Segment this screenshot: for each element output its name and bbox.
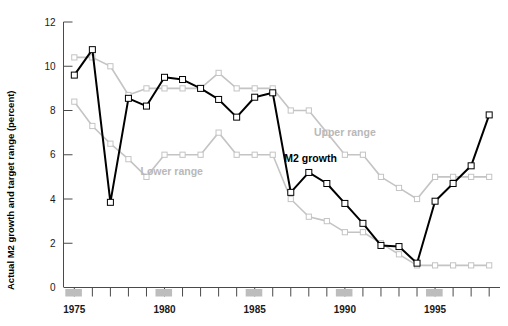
data-point-marker xyxy=(107,199,113,205)
series-line xyxy=(74,102,489,266)
y-tick-label: 8 xyxy=(50,105,56,116)
data-point-marker xyxy=(342,230,347,235)
data-point-marker xyxy=(162,152,167,157)
data-point-marker xyxy=(487,174,492,179)
data-point-marker xyxy=(324,219,329,224)
data-point-marker xyxy=(162,74,168,80)
data-point-marker xyxy=(432,263,437,268)
data-point-marker xyxy=(396,185,401,190)
x-axis-band xyxy=(246,289,263,297)
data-point-marker xyxy=(234,86,239,91)
data-point-marker xyxy=(144,86,149,91)
data-point-marker xyxy=(143,103,149,109)
data-point-marker xyxy=(126,157,131,162)
x-tick-label: 1980 xyxy=(153,304,176,315)
data-point-marker xyxy=(108,64,113,69)
y-tick-label: 6 xyxy=(50,149,56,160)
chart-container: Actual M2 growth and target range (perce… xyxy=(0,0,508,326)
series-m2-growth xyxy=(71,47,492,267)
x-tick-label: 1995 xyxy=(424,304,447,315)
data-point-marker xyxy=(306,214,311,219)
data-point-marker xyxy=(180,77,186,83)
data-point-marker xyxy=(396,244,402,250)
data-point-marker xyxy=(396,252,401,257)
y-axis-ticks: 024681012 xyxy=(44,17,72,294)
data-point-marker xyxy=(270,152,275,157)
data-point-marker xyxy=(432,174,437,179)
data-point-marker xyxy=(360,152,365,157)
data-point-marker xyxy=(360,230,365,235)
data-point-marker xyxy=(72,55,77,60)
data-point-marker xyxy=(469,263,474,268)
data-point-marker xyxy=(89,47,95,53)
data-point-marker xyxy=(451,174,456,179)
data-point-marker xyxy=(72,99,77,104)
data-point-marker xyxy=(342,152,347,157)
data-point-marker xyxy=(486,112,492,118)
y-tick-label: 12 xyxy=(44,17,56,28)
data-point-marker xyxy=(288,196,293,201)
data-point-marker xyxy=(450,181,456,187)
y-tick-label: 0 xyxy=(50,282,56,293)
x-axis-band xyxy=(155,289,172,297)
data-point-marker xyxy=(198,85,204,91)
data-point-marker xyxy=(108,141,113,146)
data-point-marker xyxy=(468,163,474,169)
data-point-marker xyxy=(252,152,257,157)
data-point-marker xyxy=(378,242,384,248)
data-point-marker xyxy=(252,86,257,91)
data-point-marker xyxy=(252,94,258,100)
data-point-marker xyxy=(451,263,456,268)
series-upper-range xyxy=(72,55,492,202)
data-point-marker xyxy=(342,200,348,206)
data-point-marker xyxy=(234,114,240,120)
data-point-marker xyxy=(288,108,293,113)
x-axis-tick-labels: 19751980198519901995 xyxy=(63,304,446,315)
data-point-marker xyxy=(198,152,203,157)
data-point-marker xyxy=(288,189,294,195)
data-point-marker xyxy=(469,174,474,179)
m2-growth-line-chart: Actual M2 growth and target range (perce… xyxy=(0,0,508,326)
data-point-marker xyxy=(90,123,95,128)
y-axis-title: Actual M2 growth and target range (perce… xyxy=(5,90,16,290)
data-point-marker xyxy=(306,108,311,113)
data-point-marker xyxy=(71,72,77,78)
data-point-marker xyxy=(234,152,239,157)
data-point-marker xyxy=(180,152,185,157)
series-annotation-m2-growth: M2 growth xyxy=(284,152,337,164)
series-annotation-upper-range: Upper range xyxy=(314,126,376,138)
data-point-marker xyxy=(125,95,131,101)
x-axis-band xyxy=(65,289,82,297)
data-point-marker xyxy=(414,260,420,266)
data-point-marker xyxy=(360,220,366,226)
y-tick-label: 10 xyxy=(44,61,56,72)
data-point-marker xyxy=(216,130,221,135)
series-annotation-lower-range: Lower range xyxy=(141,165,204,177)
y-tick-label: 2 xyxy=(50,238,56,249)
x-tick-label: 1990 xyxy=(334,304,357,315)
data-point-marker xyxy=(216,70,221,75)
data-point-marker xyxy=(487,263,492,268)
chart-annotations: Upper rangeM2 growthLower range xyxy=(141,126,376,177)
data-point-marker xyxy=(216,96,222,102)
x-tick-label: 1975 xyxy=(63,304,86,315)
x-tick-label: 1985 xyxy=(244,304,267,315)
data-point-marker xyxy=(378,174,383,179)
data-point-marker xyxy=(432,198,438,204)
y-tick-label: 4 xyxy=(50,194,56,205)
x-axis-band xyxy=(426,289,443,297)
data-point-marker xyxy=(306,169,312,175)
series-line xyxy=(74,50,489,264)
data-point-marker xyxy=(162,86,167,91)
data-point-marker xyxy=(180,86,185,91)
data-point-marker xyxy=(270,90,276,96)
x-axis-band xyxy=(336,289,353,297)
data-point-marker xyxy=(324,181,330,187)
x-axis-shaded-bands xyxy=(65,289,442,297)
data-point-marker xyxy=(414,196,419,201)
